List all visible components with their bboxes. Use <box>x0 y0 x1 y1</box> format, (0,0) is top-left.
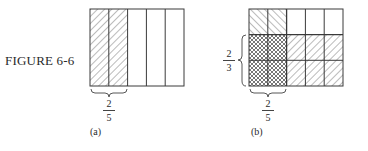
fraction-b-bottom: 2 5 <box>262 98 274 123</box>
fraction-a-bottom: 2 5 <box>103 98 115 123</box>
caption-b: (b) <box>251 126 263 137</box>
brace-bottom-a-icon <box>91 89 127 97</box>
panel-a-grid <box>90 9 184 97</box>
fraction-b-left: 2 3 <box>223 48 235 73</box>
panel-b-grid <box>238 9 343 97</box>
brace-left-b-icon <box>238 35 246 86</box>
brace-bottom-b-icon <box>250 89 286 97</box>
caption-a: (a) <box>90 126 101 137</box>
fraction-diagram <box>0 0 368 151</box>
